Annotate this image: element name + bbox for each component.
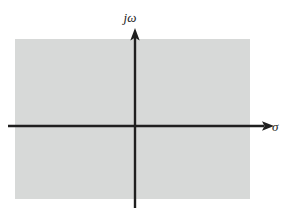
imaginary-axis-label: jω <box>122 10 137 25</box>
figure-container: jω σ <box>0 0 292 212</box>
real-axis-label: σ <box>272 119 279 134</box>
s-plane-diagram: jω σ <box>0 0 292 212</box>
shaded-plane-region <box>15 39 250 199</box>
